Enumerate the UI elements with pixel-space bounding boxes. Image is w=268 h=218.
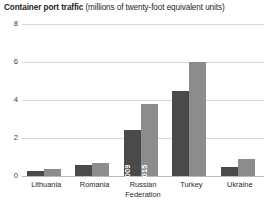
category-label-line: Federation xyxy=(114,190,172,200)
bar: 2009 xyxy=(124,130,141,176)
y-axis-tick-0: 0 xyxy=(0,172,18,180)
chart-title-main: Container port traffic xyxy=(4,3,85,12)
bar xyxy=(221,167,238,177)
chart-title-subtitle: (millions of twenty-foot equivalent unit… xyxy=(85,3,224,12)
bar xyxy=(44,169,61,176)
bar xyxy=(189,62,206,176)
chart-figure: Container port traffic (millions of twen… xyxy=(0,0,268,218)
category-axis: LithuaniaRomaniaRussianFederationTurkeyU… xyxy=(22,180,264,214)
bar-group xyxy=(22,24,70,176)
y-axis-tick-6: 6 xyxy=(0,58,18,66)
bar xyxy=(75,165,92,176)
y-axis-tick-4: 4 xyxy=(0,96,18,104)
bars-layer: 20092015 xyxy=(22,24,264,176)
bar-group xyxy=(70,24,118,176)
bar-group xyxy=(167,24,215,176)
bar xyxy=(172,91,189,177)
y-axis-tick-8: 8 xyxy=(0,20,18,28)
chart-title: Container port traffic (millions of twen… xyxy=(4,2,266,16)
bar xyxy=(92,163,109,176)
y-axis-tick-2: 2 xyxy=(0,134,18,142)
bar-group: 20092015 xyxy=(119,24,167,176)
bar: 2015 xyxy=(141,104,158,176)
bar-group xyxy=(216,24,264,176)
category-label: Ukraine xyxy=(211,180,268,190)
bar xyxy=(238,159,255,176)
category-label-line: Ukraine xyxy=(211,180,268,190)
bar xyxy=(27,171,44,176)
